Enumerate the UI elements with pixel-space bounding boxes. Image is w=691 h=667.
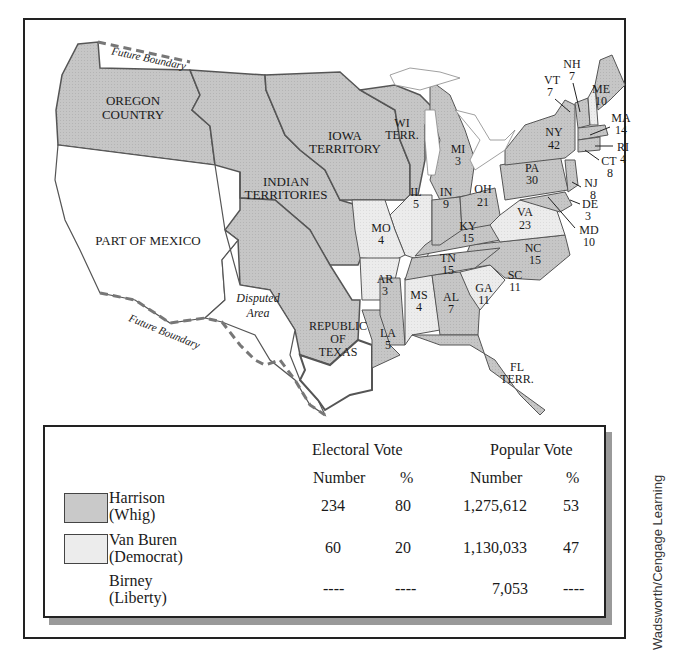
label-disputed: Disputed xyxy=(235,291,280,305)
legend-table: Electoral Vote Popular Vote Number % Num… xyxy=(43,425,606,618)
van-buren-ev-percent: 20 xyxy=(395,539,411,557)
svg-text:11: 11 xyxy=(509,280,521,294)
label-texas-3: TEXAS xyxy=(319,345,358,359)
van-buren-ev-number: 60 xyxy=(325,539,341,557)
svg-text:3: 3 xyxy=(455,154,461,168)
label-iowa-2: TERRITORY xyxy=(309,141,382,156)
candidate-van-buren: Van Buren(Democrat) xyxy=(109,531,183,565)
state-ct-ri[interactable] xyxy=(578,137,600,152)
pv-percent-header: % xyxy=(566,469,579,487)
swatch-whig xyxy=(64,493,108,523)
birney-pv-percent: ---- xyxy=(563,580,584,598)
svg-text:14: 14 xyxy=(615,123,627,137)
electoral-vote-header: Electoral Vote xyxy=(312,441,403,459)
candidate-harrison: Harrison(Whig) xyxy=(109,489,165,523)
svg-text:15: 15 xyxy=(462,231,474,245)
svg-text:10: 10 xyxy=(595,94,607,108)
svg-text:5: 5 xyxy=(385,338,391,352)
svg-text:21: 21 xyxy=(477,195,489,209)
svg-text:4: 4 xyxy=(416,300,422,314)
birney-ev-number: ---- xyxy=(323,580,344,598)
pv-number-header: Number xyxy=(470,469,522,487)
svg-text:3: 3 xyxy=(585,209,591,223)
label-future-boundary-north: Future Boundary xyxy=(110,44,188,72)
label-wi-2: TERR. xyxy=(385,128,419,142)
svg-text:7: 7 xyxy=(547,85,553,99)
label-disputed-2: Area xyxy=(246,306,270,320)
svg-text:5: 5 xyxy=(413,197,419,211)
swatch-democrat xyxy=(64,534,108,564)
credit-line: Wadsworth/Cengage Learning xyxy=(650,475,665,650)
ev-number-header: Number xyxy=(313,469,365,487)
svg-text:4: 4 xyxy=(620,152,626,166)
harrison-pv-percent: 53 xyxy=(563,497,579,515)
label-oregon: OREGON xyxy=(106,93,161,108)
svg-text:NY: NY xyxy=(545,125,563,139)
label-fl-2: TERR. xyxy=(500,372,534,386)
ev-percent-header: % xyxy=(400,469,413,487)
label-indian-2: TERRITORIES xyxy=(245,187,328,202)
svg-text:7: 7 xyxy=(569,69,575,83)
svg-text:7: 7 xyxy=(448,302,454,316)
svg-text:OH: OH xyxy=(474,182,492,196)
label-mexico: PART OF MEXICO xyxy=(95,233,200,248)
label-texas: REPUBLIC xyxy=(309,319,367,333)
svg-text:8: 8 xyxy=(607,166,613,180)
label-oregon-2: COUNTRY xyxy=(102,107,165,122)
label-texas-2: OF xyxy=(330,332,346,346)
candidate-birney: Birney(Liberty) xyxy=(109,572,167,606)
svg-text:30: 30 xyxy=(526,173,538,187)
birney-pv-number: 7,053 xyxy=(492,580,528,598)
svg-text:10: 10 xyxy=(583,235,595,249)
harrison-ev-number: 234 xyxy=(321,497,345,515)
svg-text:42: 42 xyxy=(548,138,560,152)
svg-text:15: 15 xyxy=(529,253,541,267)
svg-text:11: 11 xyxy=(478,293,490,307)
svg-text:15: 15 xyxy=(442,263,454,277)
svg-text:VA: VA xyxy=(517,205,533,219)
birney-ev-percent: ---- xyxy=(395,580,416,598)
van-buren-pv-number: 1,130,033 xyxy=(463,539,527,557)
svg-text:3: 3 xyxy=(382,284,388,298)
svg-text:4: 4 xyxy=(378,233,384,247)
harrison-pv-number: 1,275,612 xyxy=(463,497,527,515)
svg-text:9: 9 xyxy=(443,197,449,211)
popular-vote-header: Popular Vote xyxy=(490,441,573,459)
svg-text:23: 23 xyxy=(519,218,531,232)
state-ny[interactable] xyxy=(505,100,575,165)
van-buren-pv-percent: 47 xyxy=(563,539,579,557)
harrison-ev-percent: 80 xyxy=(395,497,411,515)
